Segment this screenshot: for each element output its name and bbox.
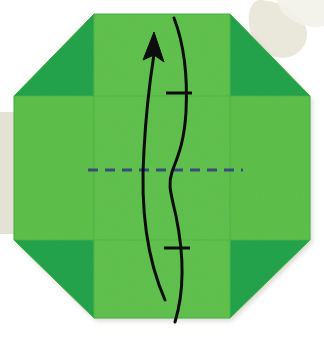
origami-figure-stage: Green octagonal folded paper sheet viewe…	[0, 0, 324, 341]
origami-diagram	[0, 0, 324, 341]
scrap-band-left-inner	[0, 112, 14, 234]
